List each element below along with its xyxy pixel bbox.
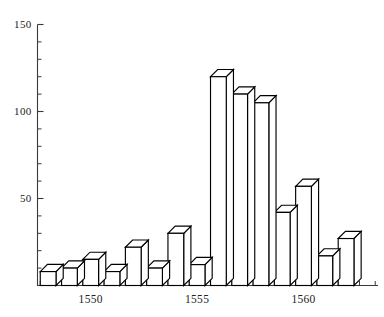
chart-canvas: 15010050155015551560: [0, 0, 384, 317]
bar-front-face: [211, 77, 227, 286]
bar-front-face: [83, 259, 99, 285]
bar-front-face: [104, 272, 120, 286]
y-axis-label: 150: [14, 18, 32, 30]
bars-group: [40, 70, 361, 286]
x-axis-label: 1555: [185, 293, 209, 305]
bar-front-face: [125, 247, 141, 285]
bar: [232, 87, 255, 286]
chart-axes: [38, 25, 379, 286]
bar: [62, 261, 85, 286]
bar: [274, 205, 297, 285]
bar-front-face: [317, 256, 333, 286]
bar: [83, 252, 106, 285]
bar-front-face: [168, 233, 184, 285]
bar: [296, 179, 319, 285]
bar: [317, 249, 340, 286]
x-axis-label: 1560: [291, 293, 315, 305]
bar-side-face: [269, 96, 276, 286]
bar-front-face: [40, 272, 56, 286]
bar-front-face: [147, 268, 163, 285]
bar: [168, 226, 191, 285]
bar: [125, 240, 148, 285]
bar-front-face: [296, 186, 312, 285]
bar-side-face: [226, 70, 233, 286]
bar: [211, 70, 234, 286]
bar-front-face: [189, 265, 205, 286]
bar-side-face: [311, 179, 318, 285]
bar-front-face: [338, 239, 354, 286]
bar: [104, 264, 127, 285]
bar-front-face: [232, 94, 248, 285]
bar-side-face: [354, 231, 361, 285]
bar-front-face: [274, 212, 290, 285]
bar: [253, 96, 276, 286]
bar: [189, 257, 212, 285]
bar-front-face: [62, 268, 78, 285]
bar: [40, 264, 63, 285]
bar-side-face: [184, 226, 191, 285]
y-axis-label: 50: [20, 192, 32, 204]
bar: [338, 231, 361, 285]
bar-front-face: [253, 103, 269, 286]
bar-side-face: [248, 87, 255, 286]
bar-chart: 15010050155015551560: [0, 0, 384, 317]
y-axis-label: 100: [14, 105, 32, 117]
x-axis-label: 1550: [79, 293, 103, 305]
bar-side-face: [290, 205, 297, 285]
bar: [147, 261, 170, 286]
